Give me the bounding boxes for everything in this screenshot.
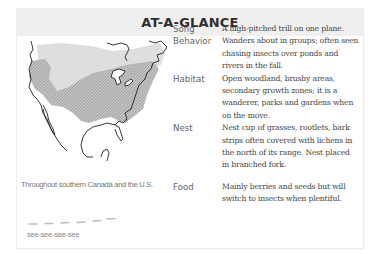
- fact-label: Nest: [173, 122, 222, 172]
- fact-row-habitat: Habitat Open woodland, brushy areas, sec…: [173, 73, 359, 123]
- fact-row-nest: Nest Nest cup of grasses, rootlets, bark…: [173, 122, 359, 172]
- sonogram-icon: [27, 216, 127, 226]
- fact-label: Song: [173, 23, 222, 35]
- fact-row-food: Food Mainly berries and seeds but will s…: [173, 181, 359, 206]
- fact-row-behavior: Behavior Wanders about in groups; often …: [173, 35, 359, 72]
- at-a-glance-card: AT-A-GLANCE: [16, 8, 364, 249]
- fact-row-song: Song A high-pitched trill on one plane.: [173, 23, 359, 35]
- fact-value: Mainly berries and seeds but will switch…: [222, 181, 359, 206]
- range-map-icon: [21, 39, 167, 165]
- fact-value: Open woodland, brushy areas, secondary g…: [222, 73, 359, 123]
- fact-value: Wanders about in groups; often seen chas…: [222, 35, 359, 72]
- fact-label: Behavior: [173, 35, 222, 72]
- facts-table: Song A high-pitched trill on one plane. …: [173, 23, 359, 206]
- fact-label: Food: [173, 181, 222, 206]
- song-phonetic: see-see-see-see: [27, 230, 79, 239]
- fact-label: Habitat: [173, 73, 222, 123]
- range-caption: Throughout southern Canada and the U.S.: [21, 180, 171, 189]
- fact-value: Nest cup of grasses, rootlets, bark stri…: [222, 122, 359, 172]
- fact-value: A high-pitched trill on one plane.: [222, 23, 359, 35]
